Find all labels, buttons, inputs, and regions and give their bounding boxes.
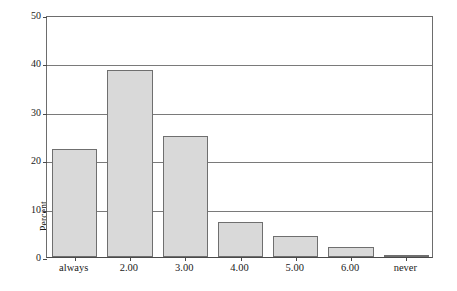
x-tickmark: [296, 257, 297, 261]
bar: [163, 136, 208, 257]
y-tick-label: 0: [22, 253, 41, 263]
bar-chart: Percent 0 10 20 30 40 50 always2.003.004…: [0, 0, 457, 291]
x-tick-label: 5.00: [286, 262, 304, 274]
x-tick-label: always: [59, 262, 88, 274]
x-tick-label: never: [394, 262, 417, 274]
x-tick-label: 6.00: [341, 262, 359, 274]
bar: [52, 149, 97, 257]
y-tickmark: [43, 259, 47, 260]
x-tickmark: [75, 257, 76, 261]
y-axis-tick-labels: 0 10 20 30 40 50: [22, 0, 41, 291]
y-tick-label: 30: [22, 108, 41, 118]
bar: [218, 222, 263, 257]
x-tickmark: [130, 257, 131, 261]
x-tickmark: [185, 257, 186, 261]
x-tickmark: [406, 257, 407, 261]
bar: [107, 70, 152, 257]
y-tick-label: 20: [22, 156, 41, 166]
x-tickmark: [351, 257, 352, 261]
bar: [328, 247, 373, 257]
x-tick-label: 2.00: [120, 262, 138, 274]
x-tick-label: 4.00: [230, 262, 248, 274]
x-axis-tick-labels: always2.003.004.005.006.00never: [46, 262, 433, 282]
y-tick-label: 10: [22, 205, 41, 215]
x-tickmark: [241, 257, 242, 261]
y-tick-label: 50: [22, 11, 41, 21]
bar: [273, 236, 318, 257]
y-tick-label: 40: [22, 59, 41, 69]
x-tick-label: 3.00: [175, 262, 193, 274]
bars-layer: [47, 17, 432, 257]
plot-area: [46, 16, 433, 258]
